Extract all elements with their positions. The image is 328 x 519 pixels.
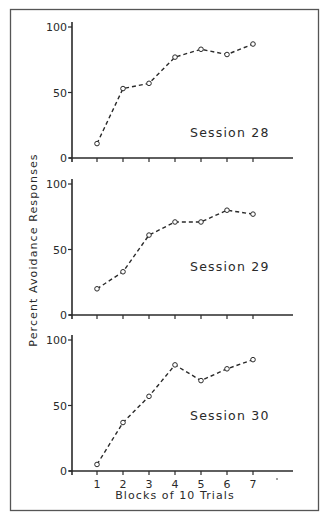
y-tick-label: 50 (53, 400, 67, 413)
y-tick-label: 50 (53, 87, 67, 100)
data-point-marker (251, 357, 256, 362)
y-tick-label: 100 (46, 21, 67, 34)
session-label: Session 29 (190, 259, 270, 274)
data-point-marker (225, 52, 230, 57)
y-tick-label: 100 (46, 334, 67, 347)
y-tick-label: 0 (60, 465, 67, 478)
data-point-marker (225, 367, 230, 372)
y-axis-title: Percent Avoidance Responses (27, 153, 40, 346)
panels: 050100Session 28050100Session 2905010012… (46, 21, 293, 491)
figure-frame (11, 10, 319, 511)
panel-2: 050100Session 29 (46, 178, 293, 322)
data-point-marker (121, 269, 126, 274)
data-point-marker (147, 394, 152, 399)
data-point-marker (95, 287, 100, 292)
figure: Percent Avoidance Responses 050100Sessio… (0, 0, 328, 519)
data-point-marker (199, 220, 204, 225)
data-point-marker (121, 420, 126, 425)
data-point-marker (225, 208, 230, 213)
data-point-marker (147, 233, 152, 238)
panel-1: 050100Session 28 (46, 21, 293, 165)
stray-dot (276, 478, 278, 480)
data-point-marker (251, 42, 256, 47)
data-point-marker (173, 363, 178, 368)
x-tick-label: 1 (94, 478, 101, 491)
y-tick-label: 0 (60, 152, 67, 165)
session-label: Session 28 (190, 125, 270, 140)
x-tick-label: 7 (250, 478, 257, 491)
data-point-marker (95, 462, 100, 467)
data-point-marker (199, 47, 204, 52)
x-axis-title: Blocks of 10 Trials (115, 489, 235, 502)
data-point-marker (173, 55, 178, 60)
data-point-marker (173, 220, 178, 225)
y-tick-label: 50 (53, 244, 67, 257)
session-label: Session 30 (190, 408, 270, 423)
panel-3: 0501001234567Session 30 (46, 334, 293, 491)
data-point-marker (121, 86, 126, 91)
data-point-marker (199, 378, 204, 383)
y-axis-title-text: Percent Avoidance Responses (27, 153, 40, 346)
data-point-marker (251, 212, 256, 217)
y-tick-label: 100 (46, 178, 67, 191)
y-tick-label: 0 (60, 309, 67, 322)
data-point-marker (95, 141, 100, 146)
data-point-marker (147, 81, 152, 86)
